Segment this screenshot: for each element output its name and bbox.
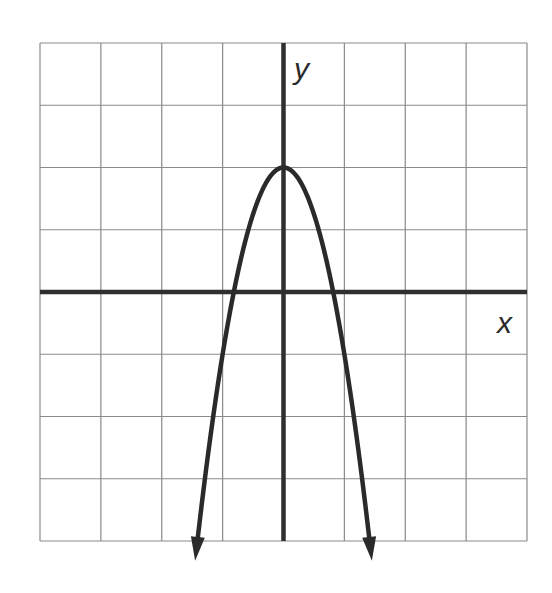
arrowhead-right-icon	[362, 536, 376, 561]
axes	[40, 43, 527, 541]
y-axis-label: y	[292, 52, 311, 85]
x-axis-label: x	[495, 306, 513, 339]
arrowhead-left-icon	[191, 536, 205, 561]
parabola-graph: y x	[0, 0, 552, 593]
